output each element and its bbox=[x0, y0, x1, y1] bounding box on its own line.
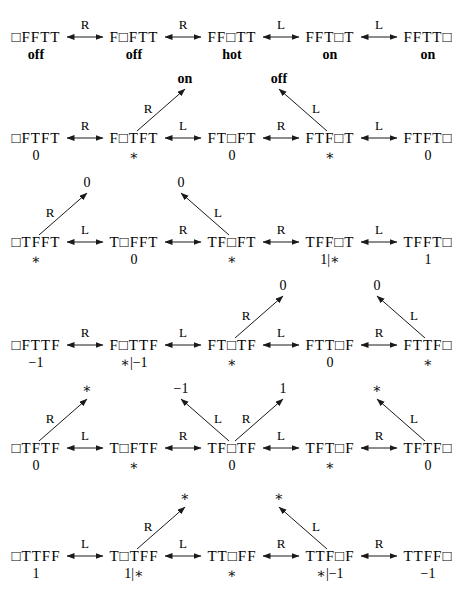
move-label: L bbox=[375, 222, 383, 237]
state-tape: FF□TT bbox=[207, 29, 256, 45]
exit-target-label: 1 bbox=[280, 381, 287, 396]
exit-move-label: R bbox=[242, 308, 251, 323]
exit-target-label: −1 bbox=[174, 381, 189, 396]
state-tape: □FTFT bbox=[11, 130, 60, 146]
move-label: L bbox=[179, 325, 187, 340]
move-label: L bbox=[375, 17, 383, 32]
state-output-label: 0 bbox=[131, 252, 138, 267]
state-tape: □FTTF bbox=[11, 337, 60, 353]
exit-move-label: L bbox=[214, 411, 222, 426]
exit-move-label: R bbox=[46, 411, 55, 426]
state-tape: □TFTF bbox=[11, 440, 60, 456]
exit-move-label: L bbox=[410, 308, 418, 323]
state-tape: □TTFF bbox=[11, 548, 60, 564]
move-label: L bbox=[81, 428, 89, 443]
exit-target-label: 0 bbox=[84, 175, 91, 190]
state-output-label: 0 bbox=[327, 355, 334, 370]
move-label: R bbox=[375, 325, 384, 340]
move-label: R bbox=[375, 428, 384, 443]
state-tape: TFT□F bbox=[305, 440, 354, 456]
state-output-label: 0 bbox=[425, 148, 432, 163]
state-tape: TF□FT bbox=[207, 234, 256, 250]
state-tape: FFT□T bbox=[305, 29, 354, 45]
exit-move-label: L bbox=[214, 205, 222, 220]
exit-target-label: off bbox=[271, 71, 288, 86]
state-output-label: ∗|−1 bbox=[120, 355, 147, 370]
state-output-label: 1 bbox=[425, 252, 432, 267]
state-output-label: ∗ bbox=[325, 148, 335, 163]
state-tape: T□FTF bbox=[109, 440, 158, 456]
state-tape: F□TTF bbox=[109, 337, 158, 353]
figure-page: □FFTToffF□FTToffFF□TThotFFT□TonFFTT□onRR… bbox=[0, 0, 459, 595]
exit-target-label: ∗ bbox=[82, 381, 92, 396]
state-output-label: ∗ bbox=[129, 148, 139, 163]
state-tape: TF□TF bbox=[207, 440, 256, 456]
move-label: L bbox=[277, 325, 285, 340]
move-label: R bbox=[81, 118, 90, 133]
state-tape: TFF□T bbox=[305, 234, 354, 250]
state-output-label: ∗ bbox=[325, 458, 335, 473]
state-output-label: 0 bbox=[229, 148, 236, 163]
move-label: L bbox=[81, 222, 89, 237]
state-tape: FT□TF bbox=[207, 337, 256, 353]
state-output-label: ∗ bbox=[227, 566, 237, 581]
move-label: R bbox=[81, 17, 90, 32]
state-output-label: hot bbox=[222, 47, 242, 62]
exit-target-label: 0 bbox=[374, 278, 381, 293]
state-output-label: 0 bbox=[33, 458, 40, 473]
move-label: R bbox=[81, 325, 90, 340]
move-label: R bbox=[179, 428, 188, 443]
state-tape: TTFF□ bbox=[403, 548, 452, 564]
state-tape: TTF□F bbox=[305, 548, 354, 564]
state-tape: TT□FF bbox=[207, 548, 256, 564]
exit-target-label: on bbox=[178, 71, 193, 86]
exit-target-label: ∗ bbox=[372, 381, 382, 396]
state-tape: F□TFT bbox=[109, 130, 158, 146]
move-label: L bbox=[81, 536, 89, 551]
move-label: L bbox=[375, 118, 383, 133]
state-output-label: 0 bbox=[229, 458, 236, 473]
state-tape: FFTT□ bbox=[403, 29, 452, 45]
state-output-label: ∗ bbox=[129, 458, 139, 473]
move-label: L bbox=[277, 17, 285, 32]
exit-move-label: R bbox=[46, 205, 55, 220]
state-output-label: 1|∗ bbox=[124, 566, 143, 581]
state-output-label: 1 bbox=[33, 566, 40, 581]
exit-target-label: 0 bbox=[280, 278, 287, 293]
move-label: R bbox=[277, 118, 286, 133]
exit-move-label: R bbox=[144, 101, 153, 116]
state-tape: □FFTT bbox=[11, 29, 60, 45]
state-output-label: −1 bbox=[29, 355, 44, 370]
state-output-label: on bbox=[323, 47, 338, 62]
move-label: R bbox=[179, 222, 188, 237]
exit-target-label: ∗ bbox=[180, 489, 190, 504]
move-label: R bbox=[277, 222, 286, 237]
move-label: R bbox=[277, 536, 286, 551]
state-tape: FTF□T bbox=[305, 130, 354, 146]
state-tape: TFTF□ bbox=[403, 440, 452, 456]
state-output-label: ∗ bbox=[31, 252, 41, 267]
state-output-label: ∗ bbox=[227, 355, 237, 370]
state-tape: FT□FT bbox=[207, 130, 256, 146]
exit-move-label: L bbox=[312, 101, 320, 116]
exit-move-label: L bbox=[410, 411, 418, 426]
state-output-label: ∗ bbox=[227, 252, 237, 267]
state-output-label: 0 bbox=[33, 148, 40, 163]
state-tape: FTTF□ bbox=[403, 337, 452, 353]
state-tape: TFFT□ bbox=[403, 234, 452, 250]
state-output-label: 1|∗ bbox=[320, 252, 339, 267]
state-tape: T□TFF bbox=[109, 548, 158, 564]
exit-target-label: 0 bbox=[178, 175, 185, 190]
state-output-label: 0 bbox=[425, 458, 432, 473]
state-tape: FTFT□ bbox=[403, 130, 452, 146]
state-tape: □TFFT bbox=[11, 234, 60, 250]
state-output-label: ∗|−1 bbox=[316, 566, 343, 581]
move-label: R bbox=[179, 17, 188, 32]
exit-move-label: L bbox=[312, 519, 320, 534]
move-label: L bbox=[277, 428, 285, 443]
state-output-label: on bbox=[421, 47, 436, 62]
state-transition-diagram: □FFTToffF□FTToffFF□TThotFFT□TonFFTT□onRR… bbox=[0, 0, 459, 595]
exit-move-label: R bbox=[242, 411, 251, 426]
state-output-label: ∗ bbox=[423, 355, 433, 370]
state-output-label: off bbox=[28, 47, 45, 62]
